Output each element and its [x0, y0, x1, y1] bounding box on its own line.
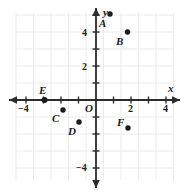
x-axis-label: x [168, 83, 174, 94]
y-tick-label-2: 2 [82, 62, 87, 72]
data-point-c [60, 107, 65, 112]
point-label-f: F [117, 117, 124, 128]
origin-label: O [85, 103, 93, 114]
data-point-d [76, 119, 81, 124]
x-tick-label-2: 2 [128, 104, 133, 114]
point-label-a: A [99, 18, 106, 29]
point-label-b: B [116, 36, 123, 47]
x-tick-label-4: 4 [163, 104, 168, 114]
grid-lines [16, 13, 174, 180]
data-point-f [125, 125, 130, 130]
data-point-e [42, 97, 48, 103]
data-point-a [107, 11, 112, 16]
point-label-c: C [52, 113, 59, 124]
y-axis [92, 8, 100, 188]
coordinate-plane-svg [0, 0, 189, 194]
y-tick-label-4: 4 [82, 28, 87, 38]
y-tick-label-neg4: −4 [76, 163, 87, 173]
coordinate-plane-figure: y x O −4 2 4 4 2 −4 A B C D E F [0, 0, 189, 194]
x-tick-label-neg4: −4 [18, 104, 29, 114]
x-axis [9, 96, 180, 104]
point-label-e: E [39, 85, 46, 96]
point-label-d: D [68, 126, 76, 137]
data-point-b [125, 29, 130, 34]
